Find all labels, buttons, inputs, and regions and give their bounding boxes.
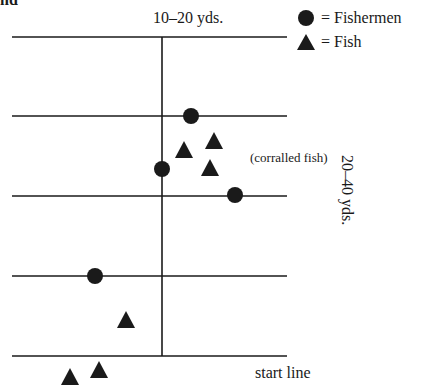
- field-grid: [12, 37, 287, 356]
- fisherman-marker: [87, 268, 103, 284]
- legend-fish-label: = Fish: [321, 33, 362, 51]
- fish-marker: [90, 361, 108, 378]
- legend-fish: = Fish: [297, 33, 362, 51]
- corralled-fish-label: (corralled fish): [250, 151, 328, 164]
- start-line-label: start line: [255, 365, 311, 381]
- legend-fishermen-label: = Fishermen: [321, 9, 402, 27]
- legend-fishermen: = Fishermen: [297, 9, 402, 27]
- side-distance-label: 20–40 yds.: [339, 155, 355, 225]
- fish-marker: [205, 132, 223, 149]
- fish-marker: [201, 159, 219, 176]
- field-diagram-svg: [0, 0, 448, 391]
- triangle-icon: [297, 34, 315, 50]
- fishing-diagram: nd 10–20 yds. = Fishermen = Fish (corral…: [0, 0, 448, 391]
- fish-marker: [175, 141, 193, 158]
- fisherman-marker: [227, 187, 243, 203]
- fish-markers: [61, 132, 223, 385]
- fish-marker: [117, 311, 135, 328]
- fisherman-marker: [154, 161, 170, 177]
- fisherman-marker: [183, 108, 199, 124]
- fish-marker: [61, 368, 79, 385]
- circle-icon: [297, 9, 315, 27]
- top-distance-label: 10–20 yds.: [153, 10, 223, 26]
